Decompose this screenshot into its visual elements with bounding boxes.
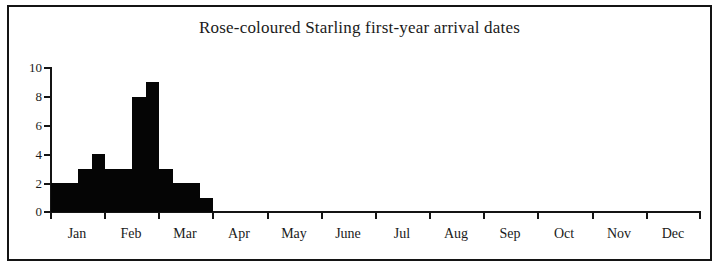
x-tick-0	[50, 213, 52, 219]
x-axis-label-june: June	[321, 226, 375, 242]
bar-9	[173, 183, 187, 212]
bar-5	[119, 169, 133, 212]
x-axis-label-may: May	[267, 226, 321, 242]
bar-11	[200, 198, 214, 212]
y-tick-4	[44, 154, 51, 156]
y-axis-label-0: 0	[16, 205, 42, 218]
bar-4	[105, 169, 119, 212]
bar-7	[146, 82, 160, 212]
y-label-4-wrap: 4	[12, 148, 42, 161]
x-tick-10	[592, 213, 594, 219]
y-tick-6	[44, 125, 51, 127]
y-label-0-wrap: 0	[12, 205, 42, 218]
plot-area: 10 8 6 4 2 0	[0, 0, 719, 269]
x-axis-label-jul: Jul	[375, 226, 429, 242]
bar-6	[132, 97, 146, 212]
x-tick-3	[212, 213, 214, 219]
y-label-2-wrap: 2	[12, 177, 42, 190]
y-tick-2	[44, 183, 51, 185]
y-axis-label-2: 2	[16, 177, 42, 190]
x-tick-8	[483, 213, 485, 219]
bar-8	[159, 169, 173, 212]
x-tick-9	[537, 213, 539, 219]
x-tick-5	[321, 213, 323, 219]
y-axis-label-8: 8	[16, 90, 42, 103]
y-axis-label-4: 4	[16, 148, 42, 161]
x-tick-11	[646, 213, 648, 219]
figure-container: Rose-coloured Starling first-year arriva…	[0, 0, 719, 269]
x-tick-12	[699, 213, 701, 219]
x-tick-7	[429, 213, 431, 219]
y-label-10-wrap: 10	[12, 61, 42, 74]
x-tick-1	[104, 213, 106, 219]
y-label-8-wrap: 8	[12, 90, 42, 103]
x-axis-label-oct: Oct	[537, 226, 591, 242]
y-axis-label-10: 10	[16, 61, 42, 74]
x-axis-label-apr: Apr	[212, 226, 266, 242]
y-tick-8	[44, 96, 51, 98]
x-tick-6	[375, 213, 377, 219]
bar-1	[65, 183, 79, 212]
bar-10	[186, 183, 200, 212]
x-axis-label-nov: Nov	[592, 226, 646, 242]
x-axis-label-aug: Aug	[429, 226, 483, 242]
bar-0	[51, 183, 65, 212]
bar-3	[92, 154, 106, 212]
bar-2	[78, 169, 92, 212]
x-axis-label-jan: Jan	[50, 226, 104, 242]
x-tick-4	[267, 213, 269, 219]
x-tick-2	[158, 213, 160, 219]
y-axis-label-6: 6	[16, 119, 42, 132]
y-tick-10	[44, 67, 51, 69]
x-axis-label-sep: Sep	[483, 226, 537, 242]
x-axis-label-dec: Dec	[646, 226, 700, 242]
y-label-6-wrap: 6	[12, 119, 42, 132]
x-axis-label-mar: Mar	[158, 226, 212, 242]
x-axis-label-feb: Feb	[104, 226, 158, 242]
